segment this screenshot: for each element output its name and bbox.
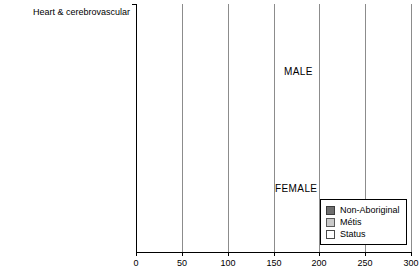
x-tick <box>228 252 229 256</box>
x-tick-label: 0 <box>133 258 138 268</box>
x-tick-label: 200 <box>311 258 326 268</box>
panel-label-male: MALE <box>284 66 313 77</box>
x-tick-label: 250 <box>357 258 372 268</box>
legend-swatch-icon-non-aboriginal <box>326 206 335 215</box>
legend-label-status: Status <box>340 229 366 239</box>
x-tick <box>365 252 366 256</box>
x-tick-label: 150 <box>266 258 281 268</box>
chart-legend: Non-Aboriginal Métis Status <box>320 199 407 245</box>
legend-item-status: Status <box>326 228 400 240</box>
legend-swatch-icon-status <box>326 230 335 239</box>
legend-label-metis: Métis <box>340 217 362 227</box>
x-tick-label: 50 <box>177 258 187 268</box>
x-tick <box>319 252 320 256</box>
x-tick <box>274 252 275 256</box>
category-label: Heart & cerebrovascular <box>0 7 130 17</box>
panel-label-female: FEMALE <box>275 183 317 194</box>
gridline <box>411 4 412 252</box>
legend-swatch-icon-metis <box>326 218 335 227</box>
gridline <box>274 4 275 252</box>
x-tick-label: 300 <box>403 258 418 268</box>
x-tick <box>182 252 183 256</box>
x-tick-label: 100 <box>220 258 235 268</box>
legend-item-non-aboriginal: Non-Aboriginal <box>326 204 400 216</box>
grouped-bar-chart: Heart & cerebrovascular 0501001502002503… <box>0 0 420 276</box>
y-axis-line <box>136 4 137 252</box>
gridline <box>228 4 229 252</box>
legend-item-metis: Métis <box>326 216 400 228</box>
legend-label-non-aboriginal: Non-Aboriginal <box>340 205 400 215</box>
x-tick <box>136 252 137 256</box>
x-tick <box>411 252 412 256</box>
gridline <box>182 4 183 252</box>
